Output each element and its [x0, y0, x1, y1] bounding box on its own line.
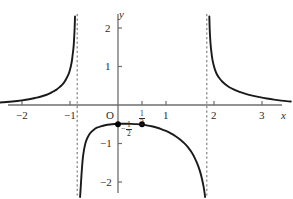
y-tick-label-neg1: −1: [100, 138, 112, 149]
curve-branches: [0, 16, 291, 197]
x-tick-label-neg1: −1: [64, 110, 76, 121]
y-tick-label-neg2: −2: [100, 177, 112, 188]
fraction-one-half: 1 2: [126, 121, 132, 138]
origin-label: O: [106, 110, 114, 121]
minus-sign: −: [121, 125, 126, 133]
fraction-denominator: 2: [139, 119, 145, 127]
x-tick-label-3: 3: [259, 110, 265, 121]
x-tick-label-2: 2: [211, 110, 217, 121]
point-label-neg-one-half: − 1 2: [121, 121, 132, 138]
function-graph-figure: x y O −2 −1 1 2 1 2 3 2 1 −1 −2 − 1 2: [0, 0, 293, 199]
y-tick-label-1: 1: [105, 61, 111, 72]
x-tick-label-neg2: −2: [16, 110, 28, 121]
y-tick-label-2: 2: [105, 23, 111, 34]
fraction-one-half: 1 2: [139, 110, 145, 127]
x-tick-label-half: 1 2: [139, 110, 145, 127]
y-axis-label: y: [119, 9, 124, 20]
axes-group: [8, 14, 282, 193]
plot-canvas: [0, 0, 293, 199]
curve-right-branch: [209, 16, 290, 101]
x-tick-label-1: 1: [163, 110, 169, 121]
curve-middle-branch: [80, 124, 205, 197]
fraction-denominator: 2: [126, 130, 132, 138]
x-axis-label: x: [281, 110, 286, 121]
curve-left-branch: [0, 16, 75, 103]
